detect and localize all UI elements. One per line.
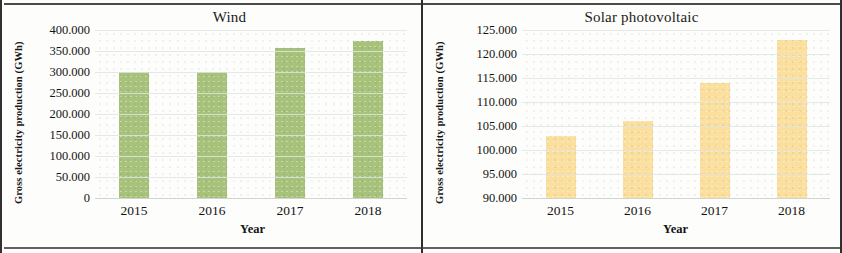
gridline (95, 114, 407, 115)
gridline (522, 174, 830, 175)
gridline (522, 54, 830, 55)
y-tick-label: 350.000 (49, 45, 90, 58)
y-tick-label: 50.000 (56, 171, 90, 184)
bar-2017 (700, 83, 730, 198)
y-axis-title-solar: Gross electricity production (GWh) (431, 38, 447, 208)
gridline (95, 30, 407, 31)
x-axis-title-solar: Year (423, 222, 842, 237)
gridline (522, 78, 830, 79)
bar-series-solar (522, 30, 830, 198)
bar-2016 (623, 121, 653, 198)
y-tick-label: 100.000 (476, 144, 517, 157)
chart-panel-solar: Solar photovoltaic Gross electricity pro… (421, 0, 842, 253)
y-tick-label: 150.000 (49, 129, 90, 142)
y-tick-label: 90.000 (483, 192, 517, 205)
x-tick-label: 2015 (522, 203, 599, 219)
x-tick-label: 2016 (173, 203, 251, 219)
bar-2015 (546, 136, 576, 198)
y-tick-label: 300.000 (49, 66, 90, 79)
gridline (522, 150, 830, 151)
plot-wrap-solar: Gross electricity production (GWh) 125.0… (423, 30, 842, 245)
y-tick-label: 200.000 (49, 108, 90, 121)
gridline (95, 72, 407, 73)
y-tick-label: 125.000 (476, 24, 517, 37)
plot-wrap-wind: Gross electricity production (GWh) 400.0… (2, 30, 423, 245)
y-tick-label: 250.000 (49, 87, 90, 100)
y-tick-label: 100.000 (49, 150, 90, 163)
bar-2018 (353, 41, 383, 198)
bar-2017 (275, 48, 305, 198)
x-tick-label: 2017 (676, 203, 753, 219)
gridline (95, 135, 407, 136)
x-tick-label: 2015 (95, 203, 173, 219)
bar-slot (599, 30, 676, 198)
bar-slot (676, 30, 753, 198)
plot-area-solar (522, 30, 830, 199)
x-tick-label: 2016 (599, 203, 676, 219)
y-tick-label: 400.000 (49, 24, 90, 37)
x-tick-label: 2017 (251, 203, 329, 219)
x-axis-tick-labels-wind: 2015201620172018 (95, 200, 407, 222)
bar-slot (753, 30, 830, 198)
plot-area-wind (95, 30, 407, 199)
chart-panel-wind: Wind Gross electricity production (GWh) … (0, 0, 421, 253)
y-tick-label: 120.000 (476, 48, 517, 61)
y-tick-label: 0 (84, 192, 90, 205)
gridline (522, 126, 830, 127)
y-axis-title-wind: Gross electricity production (GWh) (10, 38, 26, 208)
y-tick-label: 115.000 (477, 72, 517, 85)
y-tick-label: 105.000 (476, 120, 517, 133)
gridline (95, 93, 407, 94)
x-axis-tick-labels-solar: 2015201620172018 (522, 200, 830, 222)
y-axis-tick-labels-solar: 125.000120.000115.000110.000105.000100.0… (455, 30, 517, 198)
y-tick-label: 110.000 (477, 96, 517, 109)
gridline (95, 51, 407, 52)
figure-frame: Wind Gross electricity production (GWh) … (0, 0, 842, 253)
bar-slot (522, 30, 599, 198)
gridline (95, 156, 407, 157)
gridline (95, 177, 407, 178)
x-tick-label: 2018 (329, 203, 407, 219)
x-axis-title-wind: Year (2, 222, 463, 237)
gridline (522, 30, 830, 31)
x-tick-label: 2018 (753, 203, 830, 219)
y-axis-tick-labels-wind: 400.000350.000300.000250.000200.000150.0… (28, 30, 90, 198)
gridline (522, 102, 830, 103)
y-tick-label: 95.000 (483, 168, 517, 181)
